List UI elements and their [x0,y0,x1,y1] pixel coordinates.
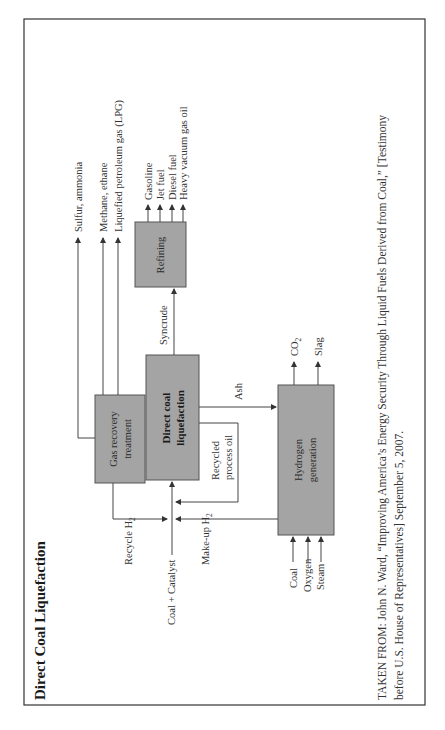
svg-text:treatment: treatment [122,419,133,459]
svg-text:liquefaction: liquefaction [174,390,186,446]
svg-text:Coal: Coal [288,568,299,588]
svg-text:Recycled: Recycled [210,440,221,480]
ash-flow: Ash [199,382,276,407]
syncrude-flow: Syncrude [158,289,174,355]
svg-text:Refining: Refining [155,236,166,273]
svg-text:Sulfur, ammonia: Sulfur, ammonia [73,162,84,232]
svg-text:Make-up H2: Make-up H2 [200,513,214,565]
svg-text:process oil: process oil [223,435,234,480]
gas-outputs: Sulfur, ammonia Methane, ethane Liquefie… [73,99,125,438]
svg-text:Hydrogen: Hydrogen [293,438,304,481]
svg-text:Ash: Ash [233,382,244,400]
coal-catalyst-flow: Coal + Catalyst [166,482,177,625]
refining-outputs: Gasoline Jet fuel Diesel fuel Heavy vacu… [143,106,189,222]
svg-text:Diesel fuel: Diesel fuel [167,154,178,200]
figure-frame [24,19,425,705]
svg-text:Methane, ethane: Methane, ethane [98,162,109,232]
svg-text:TAKEN FROM: John N. Ward, “Imp: TAKEN FROM: John N. Ward, “Improving Ame… [376,115,389,700]
svg-text:Syncrude: Syncrude [158,305,169,345]
diagram-canvas: Direct Coal Liquefaction Gas recovery tr… [0,0,445,730]
svg-text:Heavy vacuum gas oil: Heavy vacuum gas oil [178,106,189,200]
svg-text:Direct coal: Direct coal [160,393,172,444]
svg-text:Gas recovery: Gas recovery [108,410,119,466]
gas-recovery-box: Gas recovery treatment [95,395,145,483]
hydrogen-inputs: Coal Oxygen Steam [288,537,326,592]
svg-text:before U.S. House of Represent: before U.S. House of Representatives] Se… [393,431,406,700]
svg-text:Gasoline: Gasoline [143,162,154,200]
svg-text:CO2: CO2 [289,337,303,356]
refining-box: Refining [135,222,186,287]
figure-title: Direct Coal Liquefaction [32,540,48,700]
figure-source: TAKEN FROM: John N. Ward, “Improving Ame… [376,115,406,700]
svg-text:Recycle H2: Recycle H2 [123,517,137,565]
svg-text:Slag: Slag [313,337,324,356]
recycle-h2-flow: Recycle H2 [113,483,167,565]
svg-text:Oxygen: Oxygen [302,558,313,592]
liquefaction-box: Direct coal liquefaction [146,355,199,480]
svg-text:Coal + Catalyst: Coal + Catalyst [166,560,177,625]
svg-text:generation: generation [307,437,318,482]
svg-text:Jet fuel: Jet fuel [155,169,166,200]
svg-text:Steam: Steam [315,564,326,590]
makeup-h2-flow: Make-up H2 [176,513,278,565]
svg-text:Liquefied petroleum gas (LPG): Liquefied petroleum gas (LPG) [113,99,125,232]
hydrogen-outputs: CO2 Slag [289,337,324,385]
hydrogen-box: Hydrogen generation [278,385,334,535]
